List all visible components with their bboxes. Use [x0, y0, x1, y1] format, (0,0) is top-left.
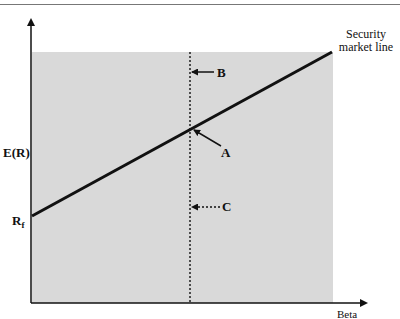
point-a-label: A	[221, 146, 230, 160]
sml-label-line2: market line	[333, 41, 399, 54]
sml-label: Security market line	[333, 28, 399, 54]
point-c-label: C	[222, 200, 231, 214]
x-axis-label: Beta	[337, 307, 357, 319]
point-b-label: B	[217, 66, 226, 80]
rf-main: R	[12, 213, 21, 228]
rf-sub: f	[21, 220, 24, 230]
shaded-region	[32, 52, 333, 303]
y-axis-label: E(R)	[3, 146, 30, 160]
rf-label: Rf	[12, 214, 24, 232]
